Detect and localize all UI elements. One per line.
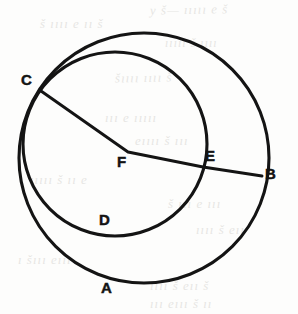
- point-label-a: A: [101, 280, 112, 295]
- segment-cfeb: [41, 91, 262, 176]
- geometry-figure: y š— ııııı е šš ıııı е ıı šııııı š ııııš…: [0, 0, 298, 314]
- point-label-c: C: [21, 72, 32, 87]
- point-label-f: F: [117, 154, 126, 169]
- outer-circle: [19, 33, 269, 283]
- point-label-e: E: [205, 148, 215, 163]
- geometry-drawing: [0, 0, 298, 314]
- point-label-d: D: [99, 212, 110, 227]
- point-label-b: B: [265, 166, 276, 181]
